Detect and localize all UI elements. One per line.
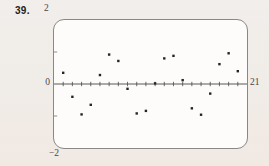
- window-xmin-label: 0: [40, 77, 50, 88]
- data-point: [237, 70, 239, 72]
- problem-number: 39.: [15, 5, 30, 16]
- data-point: [136, 112, 138, 114]
- data-point: [117, 60, 119, 62]
- data-point: [227, 52, 229, 54]
- window-ymin-label: −2: [49, 148, 59, 159]
- data-point: [99, 74, 101, 76]
- data-point: [108, 53, 110, 55]
- data-point: [209, 92, 211, 94]
- data-point: [181, 79, 183, 81]
- textbook-figure: 39. 2 0 21 −2: [0, 0, 269, 166]
- data-point: [154, 82, 156, 84]
- data-point: [191, 107, 193, 109]
- data-point: [90, 104, 92, 106]
- data-point: [80, 113, 82, 115]
- data-point: [163, 57, 165, 59]
- sequence-scatter-plot: [54, 20, 247, 148]
- data-point: [126, 88, 128, 90]
- window-xmax-label: 21: [250, 77, 260, 88]
- data-point: [200, 114, 202, 116]
- data-point: [62, 72, 64, 74]
- data-point: [172, 55, 174, 57]
- calculator-screen: [53, 19, 248, 149]
- data-point: [145, 110, 147, 112]
- data-point: [71, 96, 73, 98]
- data-point: [218, 63, 220, 65]
- window-ymax-label: 2: [44, 3, 49, 14]
